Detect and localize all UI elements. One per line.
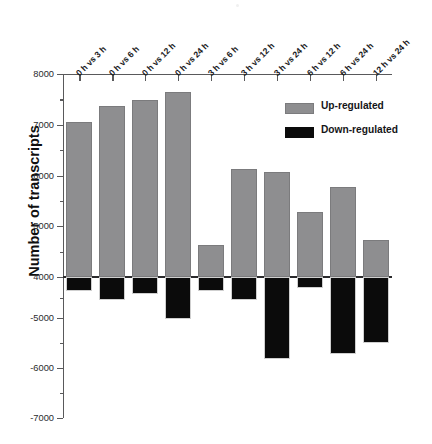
bar-up-regulated xyxy=(231,169,257,277)
y-axis-tick-label: 5000 xyxy=(33,221,54,231)
y-axis-minor-tick xyxy=(60,99,64,100)
x-axis-category-label: 3 h vs 24 h xyxy=(272,41,309,78)
y-axis-tick xyxy=(57,74,63,75)
bar-down-regulated xyxy=(297,277,323,288)
y-axis-tick-label: -7000 xyxy=(30,413,54,423)
legend-swatch-down-regulated xyxy=(285,127,314,138)
y-axis-tick-label: -5000 xyxy=(30,313,54,323)
y-axis-break-tick xyxy=(60,298,64,299)
bar-up-regulated xyxy=(165,92,191,277)
scan-artifact xyxy=(236,4,239,7)
x-axis-category-label: 6 h vs 12 h xyxy=(305,41,342,78)
y-axis-minor-tick xyxy=(60,252,64,253)
y-axis-tick-label: 6000 xyxy=(33,171,54,181)
x-axis-category-label: 0 h vs 3 h xyxy=(74,44,108,78)
bar-up-regulated xyxy=(132,100,158,277)
bar-down-regulated xyxy=(99,277,125,300)
bar-up-regulated xyxy=(198,245,224,277)
y-axis-minor-tick xyxy=(60,150,64,151)
x-axis-category-label: 0 h vs 6 h xyxy=(107,44,141,78)
y-axis-tick-label: 7000 xyxy=(33,120,54,130)
y-axis-tick xyxy=(57,125,63,126)
legend-label: Up-regulated xyxy=(321,100,384,111)
bar-up-regulated xyxy=(363,240,389,277)
y-axis-line xyxy=(63,74,64,418)
y-axis-minor-tick xyxy=(60,201,64,202)
legend-swatch-up-regulated xyxy=(285,103,314,114)
x-axis-category-label: 12 h vs 24 h xyxy=(370,37,411,78)
x-axis-category-label: 3 h vs 6 h xyxy=(206,44,240,78)
y-axis-tick xyxy=(57,226,63,227)
x-axis-category-label: 0 h vs 24 h xyxy=(173,41,210,78)
y-axis-tick xyxy=(57,176,63,177)
y-axis-tick-label: 4000 xyxy=(33,272,54,282)
bar-up-regulated xyxy=(66,122,92,277)
bar-down-regulated xyxy=(165,277,191,319)
legend-label: Down-regulated xyxy=(321,124,398,135)
y-axis-minor-tick xyxy=(60,393,64,394)
bar-down-regulated xyxy=(330,277,356,354)
y-axis-tick-label: -6000 xyxy=(30,363,54,373)
y-axis-tick-label: 8000 xyxy=(33,69,54,79)
x-axis-category-label: 6 h vs 24 h xyxy=(338,41,375,78)
y-axis-tick xyxy=(57,368,63,369)
y-axis-title: Number of transcripts xyxy=(26,81,42,321)
bar-up-regulated xyxy=(297,212,323,277)
x-axis-category-label: 0 h vs 12 h xyxy=(140,41,177,78)
bar-up-regulated xyxy=(99,106,125,277)
bar-up-regulated xyxy=(264,172,290,277)
y-axis-tick xyxy=(57,418,63,419)
y-axis-tick xyxy=(57,318,63,319)
bar-down-regulated xyxy=(231,277,257,300)
bar-down-regulated xyxy=(66,277,92,291)
bar-chart-figure: Number of transcripts 800070006000500040… xyxy=(0,0,432,444)
bar-down-regulated xyxy=(198,277,224,291)
y-axis-tick xyxy=(57,277,63,278)
bar-down-regulated xyxy=(363,277,389,343)
bar-down-regulated xyxy=(132,277,158,294)
bar-down-regulated xyxy=(264,277,290,359)
bar-up-regulated xyxy=(330,187,356,277)
x-axis-category-label: 3 h vs 12 h xyxy=(239,41,276,78)
y-axis-minor-tick xyxy=(60,343,64,344)
